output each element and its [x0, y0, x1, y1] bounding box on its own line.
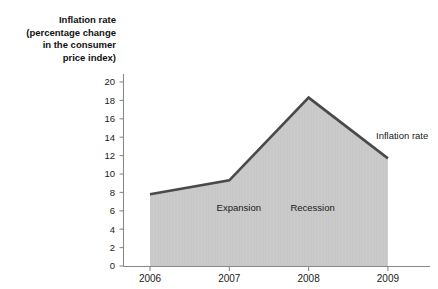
y-tick-label-18: 18 [104, 95, 115, 106]
y-tick-label-0: 0 [110, 260, 115, 271]
x-axis: 2006200720082009 [124, 267, 431, 285]
y-tick-label-2: 2 [110, 242, 115, 253]
y-tick-label-10: 10 [104, 168, 115, 179]
y-tick-label-14: 14 [104, 132, 115, 143]
series-inflation-rate [150, 98, 388, 266]
series-label-inflation-rate: Inflation rate [376, 130, 428, 141]
x-tick-label-2007: 2007 [218, 273, 241, 284]
x-tick-label-2008: 2008 [297, 273, 320, 284]
x-tick-label-2006: 2006 [139, 273, 162, 284]
x-tick-label-2009: 2009 [377, 273, 400, 284]
annotation-recession: Recession [290, 202, 334, 213]
y-tick-label-16: 16 [104, 113, 115, 124]
annotation-expansion: Expansion [217, 202, 261, 213]
y-tick-label-6: 6 [110, 205, 115, 216]
y-axis-ticks: 02468101214161820 [104, 76, 123, 271]
x-axis-ticks: 2006200720082009 [139, 267, 400, 285]
y-tick-label-8: 8 [110, 187, 115, 198]
area-fill-texture [150, 98, 388, 266]
y-tick-label-12: 12 [104, 150, 115, 161]
y-tick-label-20: 20 [104, 76, 115, 87]
plot-area: 02468101214161820 2006200720082009 Expan… [0, 0, 438, 289]
y-tick-label-4: 4 [110, 224, 115, 235]
y-axis: 02468101214161820 [104, 74, 123, 271]
inflation-rate-area-chart: Inflation rate (percentage change in the… [0, 0, 438, 289]
